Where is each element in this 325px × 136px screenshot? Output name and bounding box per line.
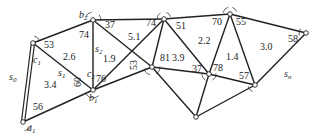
edge-line (164, 19, 209, 74)
angle-arc-icon (223, 7, 228, 13)
node-t2 (228, 12, 233, 17)
angle-label: 70 (212, 16, 222, 27)
angle-label: 60 (72, 77, 83, 87)
triangulation-diagram: 535674766037745153813778705557582.63.41.… (0, 0, 325, 136)
area-label: 3.4 (44, 79, 57, 90)
node-c1top (31, 41, 36, 46)
edge-line (152, 67, 196, 117)
angle-label: 74 (146, 17, 156, 28)
angle-label: 37 (192, 63, 202, 74)
area-label: 2.2 (198, 35, 211, 46)
angle-arc-icon (202, 73, 206, 80)
angle-label: 51 (176, 20, 186, 31)
angle-label: 58 (288, 33, 298, 44)
angle-arc-icon (232, 7, 236, 11)
variable-label: s2 (95, 43, 103, 56)
angle-label: 76 (96, 73, 106, 84)
angle-label: 78 (213, 62, 223, 73)
node-label-a1: a1 (27, 122, 36, 135)
node-a1 (21, 120, 26, 125)
variable-label: sn (284, 68, 292, 81)
area-label: 5.1 (128, 31, 141, 42)
angle-label: 57 (239, 70, 249, 81)
network-edges (21, 14, 306, 122)
variable-label: c2 (87, 68, 95, 81)
area-label: 1.9 (103, 53, 116, 64)
angle-arc-icon (166, 12, 170, 16)
angle-label: 53 (44, 39, 54, 50)
variable-label: s0 (9, 71, 17, 84)
node-b2 (91, 18, 96, 23)
angle-arc-icon (157, 13, 160, 18)
variable-label: c1 (33, 54, 41, 67)
angle-label: 55 (236, 16, 246, 27)
angle-label: 37 (105, 19, 115, 30)
node-label-b1: b1 (89, 92, 98, 105)
angle-arc-icon (34, 36, 39, 40)
node-m2 (207, 72, 212, 77)
angle-label: 53 (128, 60, 139, 70)
node-t1 (162, 17, 167, 22)
node-label-b2: b2 (79, 9, 88, 22)
node-r1 (253, 83, 258, 88)
node-m1 (150, 65, 155, 70)
node-bot (194, 115, 199, 120)
area-label: 2.6 (63, 51, 76, 62)
diagram-labels: 535674766037745153813778705557582.63.41.… (9, 9, 298, 135)
area-label: 1.4 (226, 51, 239, 62)
variable-label: s1 (58, 67, 65, 80)
angle-label: 56 (33, 101, 43, 112)
node-r2 (304, 31, 309, 36)
area-label: 3.0 (260, 41, 273, 52)
angle-label: 81 (160, 52, 170, 63)
area-label: 3.9 (172, 52, 185, 63)
angle-label: 74 (79, 29, 89, 40)
